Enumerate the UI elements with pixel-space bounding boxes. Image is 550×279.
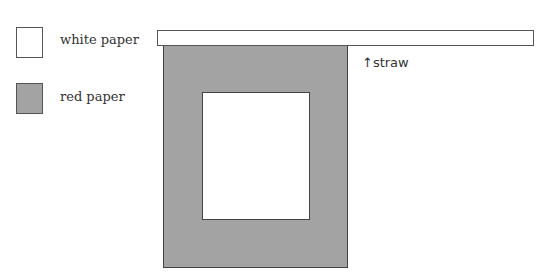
legend-label-red-paper: red paper [60, 89, 125, 104]
straw [157, 30, 534, 46]
legend-label-white-paper: white paper [60, 32, 139, 47]
white-paper-center [202, 92, 310, 220]
straw-label: ↑straw [362, 55, 409, 70]
legend-swatch-white-paper [16, 27, 43, 58]
legend-swatch-red-paper [16, 83, 43, 114]
